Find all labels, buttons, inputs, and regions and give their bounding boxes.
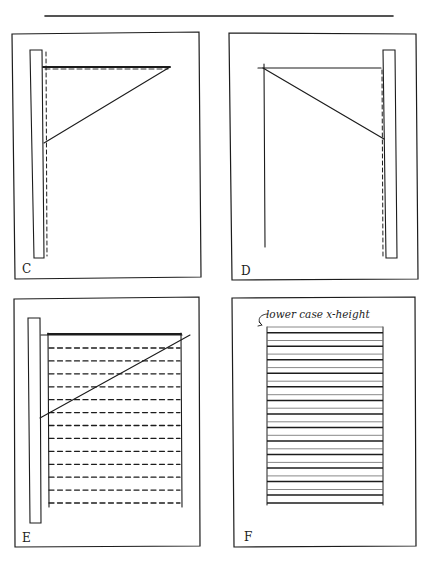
panel-d-frame — [229, 33, 418, 280]
panel-c-dashed-vertical — [46, 52, 47, 256]
panel-f-ruled-lines — [267, 327, 383, 503]
panel-d-diagonal — [263, 68, 384, 139]
panel-c-frame — [12, 32, 201, 279]
panel-e-dashed-rows — [49, 348, 180, 503]
panel-c-diagonal — [44, 67, 170, 143]
panel-c: C — [12, 32, 201, 279]
panel-e-left-vertical — [48, 333, 49, 507]
panel-e: E — [14, 297, 200, 547]
panel-d-label: D — [241, 264, 251, 278]
panel-c-ruler — [30, 50, 44, 258]
panel-d-ruler — [383, 50, 397, 258]
panel-e-ruler — [28, 318, 41, 523]
panel-d-dashed-vertical — [382, 70, 383, 258]
diagram-canvas: C D E lower case x-height F — [0, 0, 435, 565]
panel-e-right-vertical — [181, 333, 182, 507]
panel-f-label: F — [244, 530, 252, 544]
panel-f: lower case x-height F — [232, 297, 416, 547]
panel-c-label: C — [22, 262, 31, 276]
panel-d-left-vertical — [264, 64, 265, 247]
panel-d: D — [229, 33, 418, 280]
panel-f-annotation: lower case x-height — [266, 308, 370, 320]
panel-f-arrowhead-icon — [258, 322, 262, 326]
panel-e-label: E — [22, 531, 31, 545]
